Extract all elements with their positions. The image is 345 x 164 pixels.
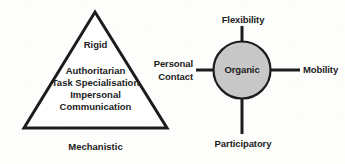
spoke-label-participatory: Participatory xyxy=(203,138,283,149)
spoke-label-personal-contact: Personal Contact xyxy=(133,58,193,84)
triangle-apex-label: Rigid xyxy=(0,40,191,50)
triangle-body-line-3: Impersonal xyxy=(0,90,191,100)
circle-center-label: Organic xyxy=(213,64,271,75)
triangle-body-line-4: Communication xyxy=(0,102,191,112)
spoke-label-personal-contact-line-2: Contact xyxy=(133,71,193,82)
triangle-caption-label: Mechanistic xyxy=(0,142,191,152)
diagram-canvas: Rigid Authoritarian Task Specialisation … xyxy=(0,0,345,164)
spoke-label-mobility: Mobility xyxy=(303,64,338,75)
spoke-label-personal-contact-line-1: Personal xyxy=(133,58,193,69)
spoke-label-flexibility: Flexibility xyxy=(212,14,274,25)
